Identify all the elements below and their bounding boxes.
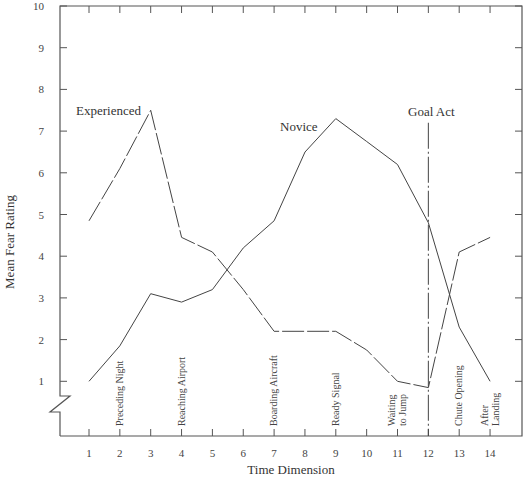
x-axis-title: Time Dimension (247, 462, 335, 477)
y-tick-label: 2 (39, 334, 45, 346)
annotation-novice: Novice (280, 119, 318, 134)
x-tick-label: 9 (333, 447, 339, 459)
x-tick-label: 10 (361, 447, 373, 459)
y-tick-label: 6 (39, 167, 45, 179)
phase-labels: Preceding NightReaching AirportBoarding … (114, 355, 501, 426)
x-tick-label: 4 (179, 447, 185, 459)
series-novice (89, 119, 490, 382)
x-tick-label: 2 (117, 447, 123, 459)
x-tick-label: 11 (392, 447, 403, 459)
x-tick-label: 13 (454, 447, 466, 459)
x-tick-label: 12 (423, 447, 434, 459)
y-axis: 12345678910 (33, 0, 522, 387)
y-axis-title: Mean Fear Rating (2, 195, 17, 289)
y-tick-label: 8 (39, 83, 45, 95)
y-tick-label: 9 (39, 42, 45, 54)
x-tick-label: 3 (148, 447, 154, 459)
x-tick-label: 8 (302, 447, 308, 459)
x-tick-label: 7 (271, 447, 277, 459)
y-tick-label: 3 (39, 292, 45, 304)
phase-label: Waiting (386, 395, 397, 426)
annotations: ExperiencedNoviceGoal Act (76, 103, 455, 436)
phase-label: Landing (490, 393, 501, 426)
annotation-goal-act: Goal Act (408, 104, 455, 119)
fear-rating-chart: 12345678910 1234567891011121314 Precedin… (0, 0, 526, 484)
y-tick-label: 5 (39, 209, 45, 221)
x-tick-label: 6 (241, 447, 247, 459)
y-tick-label: 4 (39, 250, 45, 262)
x-tick-label: 1 (86, 447, 92, 459)
phase-label: Boarding Aircraft (268, 355, 279, 426)
y-tick-label: 7 (39, 125, 45, 137)
data-series (89, 110, 490, 387)
phase-label: Ready Signal (330, 372, 341, 426)
x-tick-label: 14 (485, 447, 497, 459)
phase-label: Chute Opening (453, 365, 464, 426)
series-experienced (89, 110, 490, 387)
phase-label: to Jump (397, 394, 408, 426)
y-tick-label: 1 (39, 375, 45, 387)
phase-label: After (479, 404, 490, 426)
annotation-experienced: Experienced (76, 103, 141, 118)
phase-label: Preceding Night (114, 361, 125, 426)
y-tick-label: 10 (33, 0, 45, 12)
phase-label: Reaching Airport (176, 357, 187, 426)
x-axis: 1234567891011121314 (86, 6, 496, 459)
x-tick-label: 5 (210, 447, 216, 459)
